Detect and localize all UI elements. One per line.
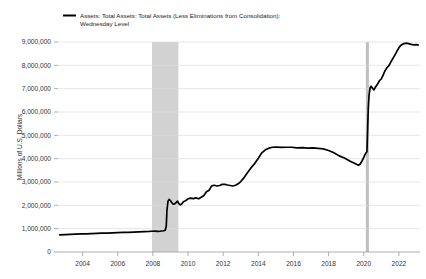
svg-text:2008: 2008: [146, 260, 161, 267]
svg-text:5,000,000: 5,000,000: [22, 132, 52, 139]
chart-canvas: 01,000,0002,000,0003,000,0004,000,0005,0…: [0, 0, 426, 279]
x-axis-ticks: 2004200620082010201220142016201820202022: [75, 252, 406, 267]
svg-text:8,000,000: 8,000,000: [22, 62, 52, 69]
svg-text:2020: 2020: [356, 260, 371, 267]
gridlines: [58, 42, 420, 229]
svg-text:2012: 2012: [216, 260, 231, 267]
svg-text:2014: 2014: [251, 260, 266, 267]
legend-label-line2: Wednesday Level: [80, 20, 129, 27]
svg-text:0: 0: [47, 248, 51, 255]
svg-text:3,000,000: 3,000,000: [22, 178, 52, 185]
svg-text:9,000,000: 9,000,000: [22, 38, 52, 45]
recession-bands: [152, 42, 369, 252]
y-axis-ticks: 01,000,0002,000,0003,000,0004,000,0005,0…: [22, 38, 58, 255]
svg-text:2018: 2018: [321, 260, 336, 267]
svg-text:2010: 2010: [181, 260, 196, 267]
chart-legend: Assets: Total Assets: Total Assets (Less…: [63, 12, 281, 28]
svg-text:2004: 2004: [75, 260, 90, 267]
svg-text:2016: 2016: [286, 260, 301, 267]
legend-label-line1: Assets: Total Assets: Total Assets (Less…: [80, 12, 281, 19]
svg-text:2006: 2006: [110, 260, 125, 267]
data-series: [60, 43, 418, 235]
svg-text:7,000,000: 7,000,000: [22, 85, 52, 92]
svg-text:6,000,000: 6,000,000: [22, 108, 52, 115]
y-axis-title: Millions of U.S. Dollars: [16, 113, 23, 180]
svg-text:1,000,000: 1,000,000: [22, 225, 52, 232]
fred-chart: 01,000,0002,000,0003,000,0004,000,0005,0…: [0, 0, 426, 279]
svg-text:2022: 2022: [392, 260, 407, 267]
svg-text:2,000,000: 2,000,000: [22, 202, 52, 209]
svg-text:4,000,000: 4,000,000: [22, 155, 52, 162]
